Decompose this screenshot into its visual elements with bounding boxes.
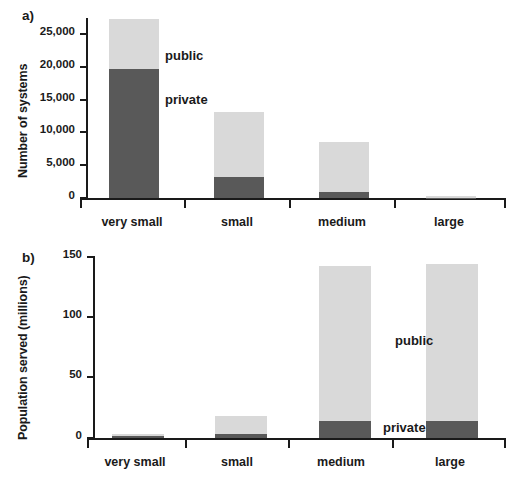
panel-a-ytick-5000: 5,000 [80,164,87,166]
panel-b-bar-very-small-public [112,434,164,435]
panel-a-annotation-public: public [165,48,203,63]
panel-a-xtick-3 [394,199,396,208]
panel-a-bar-small-public [214,112,264,178]
panel-a: a) Number of systems 0 5,000 10,000 15,0… [0,0,518,232]
panel-b-bar-very-small-private [112,436,164,438]
panel-b-xtick-3 [392,439,394,448]
panel-b-annotation-private: private [383,420,426,435]
panel-a-bar-very-small-private [109,69,159,198]
panel-a-xlabel-medium: medium [318,215,366,229]
panel-b-bar-very-small [112,434,164,438]
panel-b-xlabel-large: large [435,455,465,469]
panel-b-xtick-2 [288,439,290,448]
panel-a-label: a) [22,8,34,23]
panel-b-bar-small-private [215,434,267,438]
panel-a-bar-medium [319,142,369,198]
panel-a-annotation-private: private [165,92,208,107]
panel-b-y-axis-title: Population served (millions) [16,275,30,440]
panel-a-xlabel-very-small: very small [101,215,162,229]
panel-a-xlabel-small: small [221,215,253,229]
panel-a-bar-very-small [109,19,159,198]
panel-b-plot-area: 0 50 100 150 very small small medium lar… [95,256,506,438]
panel-b-bar-small [215,416,267,438]
panel-b-xtick-0 [87,439,89,448]
panel-a-xlabel-large: large [434,215,464,229]
panel-b-bar-large [426,264,478,438]
panel-b-ytick-100: 100 [87,316,94,318]
panel-a-ytick-15000: 15,000 [80,99,87,101]
panel-b-ytick-150: 150 [87,256,94,258]
panel-b-bar-large-private [426,421,478,438]
panel-b-bar-medium-private [319,421,371,438]
panel-b-bar-large-public [426,264,478,421]
panel-b-ytick-50: 50 [87,376,94,378]
panel-a-bar-medium-private [319,192,369,198]
panel-a-y-axis-title: Number of systems [16,64,30,178]
panel-a-bar-very-small-public [109,19,159,69]
panel-a-xtick-2 [289,199,291,208]
panel-a-bar-large-public [426,196,476,198]
panel-a-ytick-20000: 20,000 [80,66,87,68]
panel-a-bar-medium-public [319,142,369,192]
panel-a-ytick-25000: 25,000 [80,33,87,35]
panel-b-bar-medium [319,266,371,438]
panel-a-xtick-0 [80,199,82,208]
panel-b-xtick-4 [504,439,506,448]
panel-a-y-axis-line [86,18,88,198]
stacked-bar-figure: a) Number of systems 0 5,000 10,000 15,0… [0,0,518,480]
panel-a-bar-small-private [214,177,264,198]
panel-a-bar-large [426,196,476,198]
panel-a-plot-area: 0 5,000 10,000 15,000 20,000 25,000 [88,18,506,198]
panel-b-annotation-public: public [395,333,433,348]
panel-b-x-axis-line [87,438,506,440]
panel-b-y-axis-line [93,256,95,438]
panel-b-xlabel-small: small [221,455,253,469]
panel-a-bar-small [214,112,264,198]
panel-b-xlabel-medium: medium [317,455,365,469]
panel-b-xlabel-very-small: very small [104,455,165,469]
panel-b-bar-small-public [215,416,267,434]
panel-a-xtick-4 [504,199,506,208]
panel-a-xtick-1 [184,199,186,208]
panel-b-bar-medium-public [319,266,371,422]
panel-b-label: b) [22,250,35,265]
panel-b-xtick-1 [185,439,187,448]
panel-a-x-axis-line [80,198,506,200]
panel-a-ytick-10000: 10,000 [80,131,87,133]
